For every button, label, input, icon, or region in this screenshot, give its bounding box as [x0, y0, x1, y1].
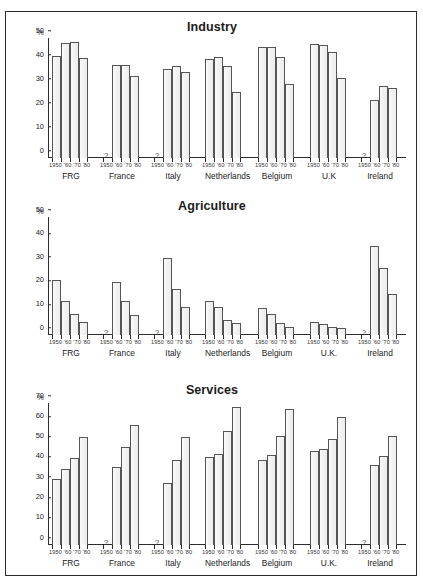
y-axis-line-agriculture: [48, 217, 49, 335]
bar: [232, 323, 241, 335]
y-tick-label: 20: [36, 277, 48, 285]
bar: [79, 437, 88, 545]
bar: [370, 465, 379, 545]
bar: [388, 88, 397, 158]
y-tick-label: 20: [36, 493, 48, 501]
panel-industry: Industry % 010203040501950 '60 '70 '80FR…: [6, 14, 418, 197]
bar: [112, 467, 121, 545]
bar: [258, 47, 267, 158]
bar: [337, 78, 346, 158]
y-tick-label: 0: [40, 534, 48, 542]
y-tick-label: 60: [36, 412, 48, 420]
x-axis-period-labels: 1950 '60 '70 '80: [151, 339, 192, 345]
y-tick-label: 70: [36, 392, 48, 400]
bar: [319, 324, 328, 335]
country-label: U.K.: [310, 348, 348, 358]
bar: [223, 320, 232, 335]
bar: [163, 69, 172, 158]
bar: [181, 307, 190, 335]
bar: [172, 289, 181, 335]
bar: [214, 307, 223, 335]
bar: [52, 280, 61, 335]
bar: [52, 56, 61, 158]
bar: [337, 328, 346, 335]
bar: [121, 65, 130, 158]
x-axis-period-labels: 1950 '60 '70 '80: [100, 339, 141, 345]
bar: [205, 457, 214, 545]
country-label: Netherlands: [205, 348, 243, 358]
bar: [214, 454, 223, 545]
y-tick-label: 50: [36, 27, 48, 35]
bar: [285, 327, 294, 335]
y-tick-label: 0: [40, 147, 48, 155]
panel-title-agriculture: Agriculture: [6, 199, 418, 213]
bar: [328, 52, 337, 158]
bar: [232, 407, 241, 545]
bar: [319, 449, 328, 545]
country-label: Netherlands: [205, 171, 243, 181]
bar: [121, 447, 130, 545]
bar: [112, 65, 121, 158]
bar: [172, 66, 181, 158]
bar: [267, 455, 276, 545]
bar: [328, 439, 337, 545]
bar: [319, 45, 328, 158]
bar: [61, 43, 70, 158]
bar: [205, 59, 214, 158]
y-tick-label: 10: [36, 513, 48, 521]
panel-services: Services % 0102030405060701950 '60 '70 '…: [6, 377, 418, 575]
country-label: Ireland: [361, 171, 399, 181]
y-tick-label: 10: [36, 300, 48, 308]
bar: [70, 458, 79, 545]
country-label: Belgium: [258, 558, 296, 568]
bar: [388, 436, 397, 545]
bar: [258, 308, 267, 335]
plot-area-industry: 010203040501950 '60 '70 '80FRG1950 '60 '…: [48, 38, 403, 158]
x-axis-period-labels: 1950 '60 '70 '80: [307, 549, 348, 555]
y-tick-label: 50: [36, 206, 48, 214]
plot-area-services: 0102030405060701950 '60 '70 '80FRG1950 '…: [48, 403, 403, 545]
bar: [267, 314, 276, 335]
bar: [258, 460, 267, 545]
y-tick-label: 10: [36, 123, 48, 131]
x-axis-period-labels: 1950 '60 '70 '80: [49, 339, 90, 345]
y-tick-label: 20: [36, 99, 48, 107]
y-tick-label: 30: [36, 473, 48, 481]
x-axis-period-labels: 1950 '60 '70 '80: [202, 339, 243, 345]
x-axis-period-labels: 1950 '60 '70 '80: [255, 162, 296, 168]
country-label: Italy: [154, 171, 192, 181]
chart-frame: Industry % 010203040501950 '60 '70 '80FR…: [5, 11, 417, 576]
bar: [130, 76, 139, 158]
bar: [370, 100, 379, 158]
bar: [276, 436, 285, 545]
x-axis-period-labels: 1950 '60 '70 '80: [100, 549, 141, 555]
y-tick-label: 40: [36, 453, 48, 461]
bar: [337, 417, 346, 545]
country-label: Netherlands: [205, 558, 243, 568]
x-axis-period-labels: 1950 '60 '70 '80: [307, 339, 348, 345]
y-tick-label: 40: [36, 51, 48, 59]
country-label: Belgium: [258, 348, 296, 358]
country-label: U.K.: [310, 558, 348, 568]
bar: [267, 47, 276, 158]
bar: [163, 483, 172, 545]
bar: [181, 437, 190, 545]
scan-top-strip: [0, 0, 423, 11]
x-axis-period-labels: 1950 '60 '70 '80: [100, 162, 141, 168]
bar: [310, 44, 319, 158]
bar: [121, 301, 130, 335]
x-axis-period-labels: 1950 '60 '70 '80: [49, 549, 90, 555]
country-label: Italy: [154, 558, 192, 568]
x-axis-period-labels: 1950 '60 '70 '80: [49, 162, 90, 168]
bar: [310, 322, 319, 335]
bar: [310, 451, 319, 545]
panel-agriculture: Agriculture % 010203040501950 '60 '70 '8…: [6, 195, 418, 377]
bar: [163, 258, 172, 335]
bar: [70, 42, 79, 158]
x-axis-period-labels: 1950 '60 '70 '80: [202, 549, 243, 555]
country-label: Ireland: [361, 348, 399, 358]
x-axis-period-labels: 1950 '60 '70 '80: [358, 162, 399, 168]
bar: [52, 479, 61, 545]
y-axis-line-services: [48, 403, 49, 545]
bar: [130, 425, 139, 545]
